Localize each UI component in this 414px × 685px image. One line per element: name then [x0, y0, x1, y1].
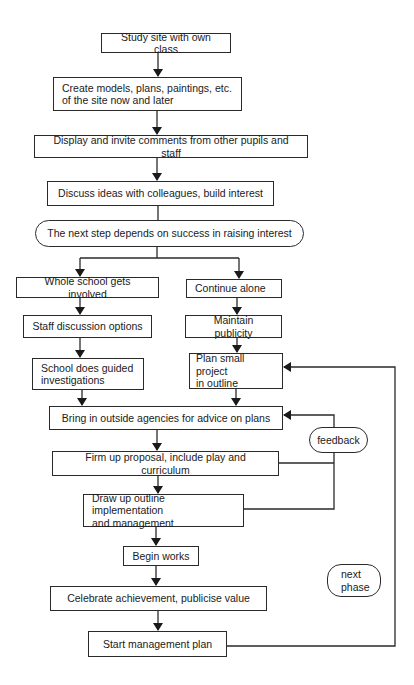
node-label: The next step depends on success in rais…: [47, 227, 292, 240]
node-whole-school: Whole school gets involved: [16, 277, 159, 298]
node-discuss: Discuss ideas with colleagues, build int…: [47, 181, 274, 206]
node-label: Begin works: [132, 550, 189, 563]
node-label: Study site with own class: [110, 31, 222, 56]
node-guided-investigations: School does guided investigations: [32, 358, 144, 390]
node-label: School does guided investigations: [41, 362, 133, 387]
node-label: Create models, plans, paintings, etc. of…: [62, 82, 232, 107]
node-celebrate: Celebrate achievement, publicise value: [50, 586, 267, 611]
node-label: Maintain publicity: [194, 314, 273, 339]
node-label: Whole school gets involved: [25, 275, 150, 300]
node-label: Continue alone: [195, 282, 266, 295]
node-feedback: feedback: [309, 427, 368, 453]
node-display: Display and invite comments from other p…: [34, 135, 308, 158]
node-maintain-publicity: Maintain publicity: [185, 315, 282, 338]
node-staff-discussion: Staff discussion options: [23, 315, 152, 338]
node-label: feedback: [317, 434, 360, 447]
node-label: Plan small project in outline: [196, 352, 274, 390]
node-firm-up: Firm up proposal, include play and curri…: [52, 451, 279, 476]
node-decision: The next step depends on success in rais…: [35, 220, 304, 247]
node-create-models: Create models, plans, paintings, etc. of…: [53, 77, 242, 111]
node-begin-works: Begin works: [123, 546, 199, 566]
node-start-management: Start management plan: [88, 631, 227, 657]
node-next-phase: next phase: [327, 564, 381, 597]
node-bring-in: Bring in outside agencies for advice on …: [49, 406, 283, 430]
node-label: Discuss ideas with colleagues, build int…: [58, 187, 263, 200]
node-label: Start management plan: [103, 638, 212, 651]
node-draw-up: Draw up outline implementation and manag…: [83, 494, 244, 527]
node-label: Staff discussion options: [32, 320, 142, 333]
node-label: Display and invite comments from other p…: [43, 134, 299, 159]
node-label: Bring in outside agencies for advice on …: [62, 412, 270, 425]
node-continue-alone: Continue alone: [186, 279, 282, 298]
node-study-site: Study site with own class: [101, 33, 231, 53]
node-label: next phase: [341, 568, 370, 593]
node-plan-small: Plan small project in outline: [189, 353, 283, 389]
node-label: Firm up proposal, include play and curri…: [61, 451, 270, 476]
node-label: Draw up outline implementation and manag…: [92, 492, 235, 530]
node-label: Celebrate achievement, publicise value: [67, 592, 250, 605]
